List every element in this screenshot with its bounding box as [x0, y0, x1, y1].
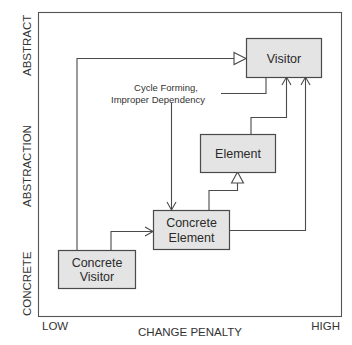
node-concrete-element-line2: Element	[169, 231, 215, 245]
y-axis-title: ABSTRACTION	[21, 125, 33, 207]
node-visitor: Visitor	[247, 39, 322, 78]
node-element-label: Element	[215, 147, 261, 161]
node-concrete-element: Concrete Element	[154, 211, 230, 250]
x-axis-right-label: HIGH	[311, 320, 340, 332]
node-concrete-visitor-line2: Visitor	[80, 270, 115, 284]
node-concrete-visitor-line1: Concrete	[72, 256, 123, 270]
inheritance-arrowhead-icon	[232, 172, 244, 183]
edge-concrete-element-to-element	[209, 172, 244, 210]
node-concrete-element-line1: Concrete	[166, 216, 217, 230]
y-axis-top-label: ABSTRACT	[21, 15, 33, 76]
visitor-pattern-diagram: ABSTRACT ABSTRACTION CONCRETE LOW CHANGE…	[0, 0, 352, 345]
edge-element-to-visitor	[251, 77, 291, 134]
node-concrete-visitor: Concrete Visitor	[59, 251, 136, 289]
cycle-annotation-line1: Cycle Forming,	[134, 82, 198, 93]
x-axis-left-label: LOW	[42, 320, 68, 332]
node-element: Element	[201, 135, 276, 173]
x-axis-title: CHANGE PENALTY	[138, 326, 242, 338]
cycle-annotation-line2: Improper Dependency	[111, 94, 205, 105]
edge-concrete-visitor-to-concrete-element	[111, 227, 153, 250]
inheritance-arrowhead-icon	[234, 53, 246, 65]
node-visitor-label: Visitor	[267, 52, 302, 66]
y-axis-bottom-label: CONCRETE	[21, 251, 33, 316]
